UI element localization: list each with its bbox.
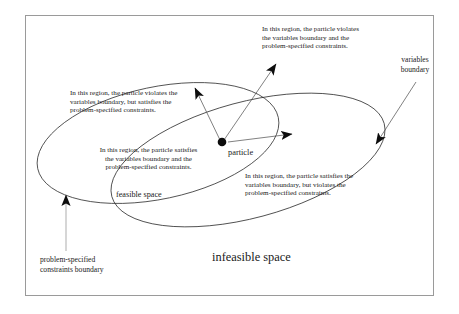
bottom-right-note: In this region, the particle satisfies t… [245, 172, 390, 198]
center-note: In this region, the particle satisfies t… [79, 146, 218, 172]
top-right-note: In this region, the particle violates th… [262, 25, 394, 51]
variables-boundary-label: variables boundary [384, 55, 446, 75]
particle-label: particle [228, 148, 253, 158]
feasible-space-label: feasible space [116, 190, 162, 200]
arrow-to-top-right-note [224, 64, 276, 140]
arrow-to-bottom-right-note [228, 134, 292, 142]
infeasible-space-label: infeasible space [212, 250, 291, 265]
constraints-boundary-label: problem-specified constraints boundary [40, 255, 155, 276]
particle-dot [218, 138, 227, 147]
arrow-to-variables-boundary [376, 82, 416, 144]
diagram-canvas: In this region, the particle violates th… [0, 0, 459, 314]
top-left-note: In this region, the particle violates th… [70, 89, 215, 115]
